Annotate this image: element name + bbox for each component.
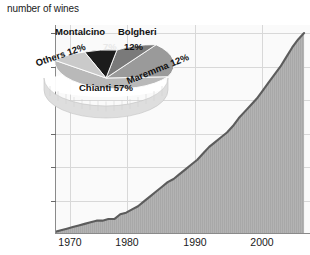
pie-label-bolgheri-pct: 12% bbox=[124, 41, 143, 52]
pie-label-chianti: Chianti 57% bbox=[79, 82, 133, 93]
pie-chart-inset: Montalcino Bolgheri 7% 12% Others 12% Ma… bbox=[36, 28, 221, 128]
pie-label-bolgheri: Bolgheri bbox=[118, 26, 157, 37]
pie-label-montalcino: Montalcino bbox=[55, 26, 105, 37]
pie-label-montalcino-pct: 7% bbox=[103, 41, 117, 52]
wine-chart: number of wines 120 100 80 60 40 20 1970… bbox=[0, 0, 310, 255]
